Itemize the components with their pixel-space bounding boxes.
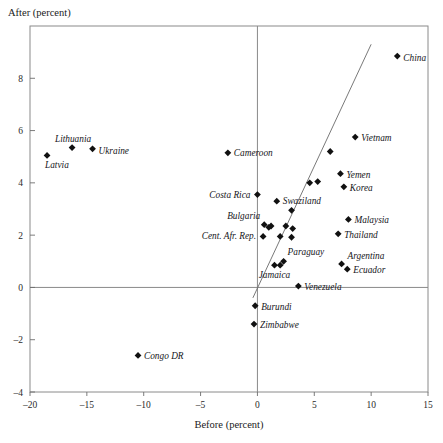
data-point: Ukraine	[89, 145, 129, 155]
point-label: Ukraine	[99, 146, 129, 156]
point-label: Swaziland	[283, 196, 322, 206]
data-point	[288, 234, 295, 241]
x-tick-label: –20	[22, 400, 38, 410]
point-label: Lithuania	[54, 134, 92, 144]
x-tick-label: 10	[366, 400, 376, 410]
point-marker	[394, 53, 401, 60]
point-marker	[44, 152, 51, 159]
x-axis-title: Before (percent)	[194, 419, 264, 431]
point-marker	[340, 183, 347, 190]
data-point: Yemen	[337, 170, 371, 180]
y-tick-label: 4	[18, 178, 23, 188]
point-label: Jamaica	[259, 270, 291, 280]
point-label: Paraguay	[287, 247, 326, 257]
data-point: Congo DR	[135, 351, 184, 361]
point-label: Yemen	[346, 170, 370, 180]
scatter-plot-figure: After (percent)Before (percent) –20–15–1…	[0, 0, 443, 443]
point-marker	[69, 144, 76, 151]
point-marker	[314, 178, 321, 185]
x-tick-label: 15	[423, 400, 433, 410]
data-point: Latvia	[44, 152, 70, 170]
data-point: Paraguay	[280, 247, 325, 264]
y-tick-label: 8	[18, 74, 23, 84]
point-marker	[327, 148, 334, 155]
point-marker	[352, 134, 359, 141]
point-label: Malaysia	[353, 215, 389, 225]
plot-frame	[30, 26, 428, 392]
point-label: Thailand	[344, 230, 378, 240]
y-tick-label: –2	[13, 335, 24, 345]
point-marker	[335, 230, 342, 237]
data-point	[288, 207, 295, 214]
data-point: China	[394, 53, 426, 63]
data-point: Costa Rica	[209, 190, 260, 200]
point-marker	[224, 149, 231, 156]
data-point: Cameroon	[224, 148, 273, 158]
point-label: Ecuador	[352, 265, 385, 275]
point-label: China	[403, 53, 426, 63]
y-axis-title: After (percent)	[8, 7, 71, 19]
x-tick-label: –10	[136, 400, 152, 410]
data-point	[327, 148, 334, 155]
point-label: Vietnam	[361, 133, 392, 143]
x-tick-label: –15	[79, 400, 95, 410]
point-label: Korea	[349, 183, 373, 193]
x-tick-label: –5	[195, 400, 206, 410]
point-marker	[135, 352, 142, 359]
data-point: Lithuania	[54, 134, 92, 151]
point-label: Latvia	[44, 160, 69, 170]
point-marker	[288, 207, 295, 214]
point-marker	[260, 233, 267, 240]
x-tick-label: 0	[255, 400, 260, 410]
point-marker	[295, 283, 302, 290]
point-label: Venezuela	[304, 282, 342, 292]
data-point: Swaziland	[273, 196, 321, 206]
point-label: Bulgaria	[227, 211, 260, 221]
data-point: Korea	[340, 183, 373, 193]
point-marker	[254, 191, 261, 198]
point-label: Congo DR	[144, 351, 184, 361]
point-marker	[337, 170, 344, 177]
data-point: Malaysia	[345, 215, 389, 225]
data-point: Cent. Afr. Rep.	[202, 231, 267, 241]
y-tick-label: 2	[18, 231, 23, 241]
x-tick-label: 5	[312, 400, 317, 410]
plot-canvas: After (percent)Before (percent) –20–15–1…	[0, 0, 443, 443]
data-point: Ecuador	[344, 265, 386, 275]
data-point: Bulgaria	[227, 211, 267, 228]
point-label: Argentina	[347, 251, 385, 261]
point-marker	[344, 266, 351, 273]
point-marker	[282, 223, 289, 230]
data-point: Jamaica	[259, 262, 291, 280]
point-marker	[338, 261, 345, 268]
point-label: Burundi	[261, 302, 292, 312]
data-point	[314, 178, 321, 185]
y-tick-label: 6	[18, 126, 23, 136]
data-point	[282, 223, 289, 230]
point-label: Costa Rica	[209, 190, 250, 200]
y-tick-label: 0	[18, 283, 23, 293]
point-marker	[288, 234, 295, 241]
point-marker	[89, 145, 96, 152]
data-point: Vietnam	[352, 133, 392, 143]
point-marker	[289, 225, 296, 232]
point-label: Cameroon	[234, 148, 273, 158]
y-tick-label: –4	[13, 388, 24, 398]
data-point	[289, 225, 296, 232]
point-label: Cent. Afr. Rep.	[202, 231, 256, 241]
point-label: Zimbabwe	[260, 320, 299, 330]
data-point: Thailand	[335, 230, 378, 240]
point-marker	[345, 216, 352, 223]
point-marker	[273, 198, 280, 205]
point-marker	[251, 321, 258, 328]
